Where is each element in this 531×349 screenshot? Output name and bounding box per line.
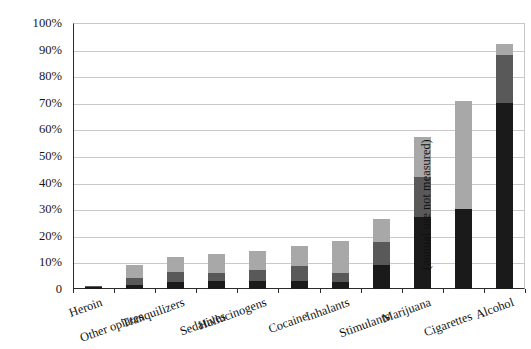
bar-segment [455, 209, 472, 289]
bar-segment [373, 219, 390, 243]
bar-cigarettes [455, 101, 472, 289]
bar-segment [208, 254, 225, 273]
x-category-label: Heroin [67, 295, 104, 321]
bar-segment [249, 281, 266, 289]
bar-segment [167, 272, 184, 283]
bar-inhalants [332, 241, 349, 289]
bar-segment [332, 241, 349, 273]
bar-alcohol [496, 44, 513, 289]
bar-segment [208, 281, 225, 289]
bar-sedatives [208, 254, 225, 289]
bar-segment [496, 44, 513, 55]
bar-cocaine [291, 246, 308, 289]
bar-segment [208, 273, 225, 282]
annotation-cigarettes: (annual use not measured) [419, 100, 434, 270]
x-axis-labels: HeroinOther opiatesTranquilizersSedative… [0, 289, 531, 349]
x-category-label: Marijuana [380, 295, 433, 327]
bar-segment [291, 266, 308, 281]
chart-root: 010%20%30%40%50%60%70%80%90%100% HeroinO… [0, 0, 531, 349]
y-tick-label: 90% [39, 42, 62, 57]
y-tick-label: 70% [39, 95, 62, 110]
bar-segment [249, 270, 266, 281]
y-tick-label: 40% [39, 175, 62, 190]
bar-hallucinogens [249, 251, 266, 289]
x-category-label: Hallucinogens [197, 295, 269, 334]
bar-segment [455, 101, 472, 209]
bar-segment [167, 282, 184, 289]
y-tick-label: 60% [39, 122, 62, 137]
bar-segment [496, 103, 513, 289]
x-category-label: Tranquilizers [120, 295, 187, 332]
bars-layer [73, 23, 525, 289]
x-category-label: Cocaine [267, 309, 310, 337]
bar-segment [249, 251, 266, 270]
x-category-label: Inhalants [303, 295, 351, 325]
bar-segment [373, 242, 390, 265]
y-tick-label: 20% [39, 228, 62, 243]
bar-segment [332, 273, 349, 282]
bar-segment [126, 278, 143, 285]
bar-segment [373, 265, 390, 289]
y-tick-label: 80% [39, 69, 62, 84]
y-tick-label: 10% [39, 255, 62, 270]
bar-segment [291, 281, 308, 289]
bar-segment [126, 265, 143, 278]
bar-other-opiates [126, 265, 143, 289]
bar-segment [332, 282, 349, 289]
x-category-label: Alcohol [473, 295, 516, 323]
y-tick-label: 50% [39, 149, 62, 164]
y-tick-label: 30% [39, 202, 62, 217]
x-category-label: Cigarettes [422, 309, 474, 340]
bar-stimulants [373, 219, 390, 289]
bar-segment [496, 55, 513, 103]
bar-segment [291, 246, 308, 266]
y-tick-label: 100% [33, 16, 62, 31]
bar-segment [167, 257, 184, 272]
bar-tranquilizers [167, 257, 184, 289]
